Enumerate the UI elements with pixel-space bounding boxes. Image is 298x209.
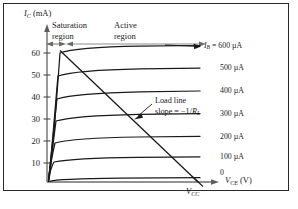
load-line-leader bbox=[134, 104, 152, 119]
curve-label-ib-200: 200 µA bbox=[220, 132, 244, 141]
saturation-region-label-line2: region bbox=[52, 31, 87, 42]
active-region-label-line1: Active bbox=[114, 20, 137, 31]
y-axis-title-sub: C bbox=[27, 13, 31, 19]
saturation-region-label-line1: Saturation bbox=[52, 20, 87, 31]
chart-canvas bbox=[0, 0, 298, 209]
load-line-annotation-line1: Load line bbox=[155, 96, 200, 107]
curve-ib-200 bbox=[49, 136, 201, 180]
load-line-slope-text: slope = −1/ bbox=[155, 107, 192, 116]
transistor-characteristics-figure: IC(mA) VCE(V) 60 50 40 30 20 10 Saturati… bbox=[0, 0, 298, 209]
active-span-arrow-left bbox=[66, 42, 73, 47]
curve-ib-500 bbox=[49, 68, 201, 180]
y-tick-label-20: 20 bbox=[24, 136, 40, 146]
curve-label-ib-500: 500 µA bbox=[220, 63, 244, 72]
y-tick-label-60: 60 bbox=[24, 48, 40, 58]
y-tick-label-10: 10 bbox=[24, 158, 40, 168]
curve-label-ib-0: 0 bbox=[220, 168, 224, 177]
x-axis-arrowhead bbox=[211, 179, 219, 185]
y-tick-label-40: 40 bbox=[24, 92, 40, 102]
saturation-span-arrow-right bbox=[59, 42, 66, 47]
curve-label-ib-600-full: IB = 600 µA bbox=[204, 41, 242, 50]
active-region-label: Active region bbox=[114, 20, 137, 41]
vcc-label-sub: CC bbox=[191, 191, 199, 197]
y-axis-arrowhead bbox=[44, 24, 50, 32]
y-axis-title-unit: (mA) bbox=[33, 8, 51, 18]
y-tick-label-30: 30 bbox=[24, 114, 40, 124]
curve-label-ib-100: 100 µA bbox=[220, 152, 244, 161]
load-line-group bbox=[60, 51, 203, 187]
vcc-label: VCC bbox=[186, 186, 199, 197]
x-axis-title-unit: (V) bbox=[240, 175, 252, 185]
x-axis-title: VCE(V) bbox=[225, 175, 252, 186]
load-line-slope-r-sub: L bbox=[197, 110, 200, 116]
y-axis-title: IC(mA) bbox=[24, 8, 51, 19]
ib-600-value: = 600 µA bbox=[210, 41, 242, 50]
curve-label-ib-300: 300 µA bbox=[220, 109, 244, 118]
active-region-label-line2: region bbox=[114, 31, 137, 42]
load-line-annotation-line2: slope = −1/RL bbox=[155, 107, 200, 119]
y-tick-label-50: 50 bbox=[24, 70, 40, 80]
curve-ib-300 bbox=[49, 114, 201, 180]
curve-label-ib-400: 400 µA bbox=[220, 86, 244, 95]
load-line-annotation: Load line slope = −1/RL bbox=[155, 96, 200, 118]
saturation-region-label: Saturation region bbox=[52, 20, 87, 41]
curve-ib-0 bbox=[49, 178, 201, 182]
x-axis-title-sub: CE bbox=[230, 180, 238, 186]
